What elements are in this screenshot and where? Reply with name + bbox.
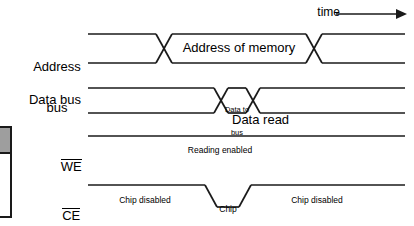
time-axis-label: time <box>306 6 340 19</box>
ce-annotation-middle-line1: Chip <box>200 205 256 214</box>
ce-annotation-left: Chip disabled <box>90 196 200 205</box>
data-read-annotation: Data read <box>232 113 332 127</box>
timing-diagram: time Address bus Address of memory Data … <box>0 0 414 226</box>
we-annotation: Reading enabled <box>150 146 290 155</box>
signal-label-ce-text: CE <box>62 208 80 223</box>
signal-label-address-bus: Address bus <box>26 33 88 142</box>
signal-label-we-text: WE <box>61 159 82 174</box>
data-bus-annotation-line2: bus <box>220 129 254 137</box>
signal-label-we: WE <box>40 145 88 188</box>
signal-label-ce: CE <box>40 194 88 226</box>
signal-label-data-bus: Data bus <box>22 93 88 107</box>
address-bus-annotation: Address of memory <box>178 41 300 55</box>
signal-label-address-bus-line1: Address <box>26 60 88 74</box>
ce-annotation-right: Chip disabled <box>262 196 372 205</box>
ce-annotation-middle: Chip enabled <box>200 187 256 226</box>
time-arrow-icon <box>336 9 407 19</box>
